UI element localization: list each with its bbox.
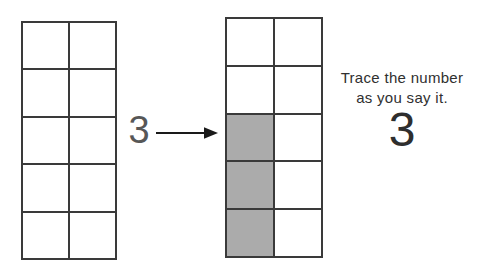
ten-frame-cell bbox=[275, 19, 321, 65]
ten-frame-cell bbox=[23, 213, 68, 258]
instruction-line-1: Trace the number bbox=[327, 68, 477, 88]
ten-frame-cell bbox=[70, 23, 115, 68]
ten-frame-cell-shaded bbox=[227, 115, 273, 161]
ten-frame-cell bbox=[23, 70, 68, 115]
instruction-text: Trace the number as you say it. bbox=[327, 68, 477, 108]
worksheet-page: 3 Trace the number as you say it. 3 bbox=[0, 0, 477, 271]
arrow-right-icon bbox=[154, 124, 220, 142]
ten-frame-cell bbox=[23, 118, 68, 163]
ten-frame-cell bbox=[275, 67, 321, 113]
ten-frame-cell bbox=[275, 210, 321, 256]
ten-frame-shaded bbox=[225, 17, 323, 258]
ten-frame-cell bbox=[275, 115, 321, 161]
trace-number: 3 bbox=[327, 104, 477, 156]
ten-frame-cell bbox=[227, 19, 273, 65]
cue-number: 3 bbox=[120, 110, 158, 150]
ten-frame-cell-shaded bbox=[227, 210, 273, 256]
ten-frame-empty bbox=[21, 21, 117, 260]
ten-frame-cell bbox=[70, 118, 115, 163]
ten-frame-cell bbox=[23, 165, 68, 210]
ten-frame-cell bbox=[70, 213, 115, 258]
ten-frame-cell bbox=[70, 165, 115, 210]
ten-frame-cell-shaded bbox=[227, 162, 273, 208]
ten-frame-cell bbox=[275, 162, 321, 208]
ten-frame-cell bbox=[70, 70, 115, 115]
ten-frame-cell bbox=[23, 23, 68, 68]
ten-frame-cell bbox=[227, 67, 273, 113]
